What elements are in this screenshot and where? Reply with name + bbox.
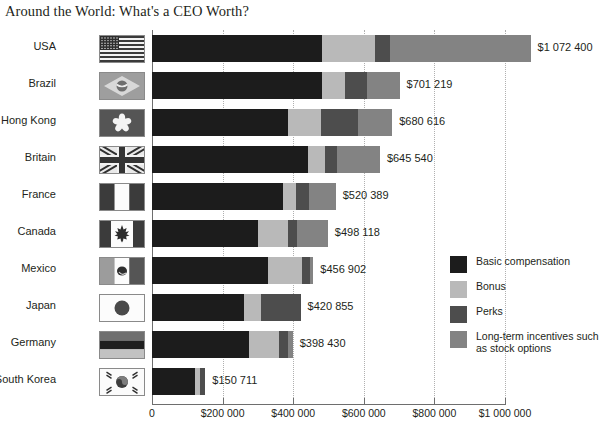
chart-container: Around the World: What's a CEO Worth? 0$… xyxy=(0,0,608,430)
bar-segment xyxy=(152,220,258,247)
bar-value-label: $456 902 xyxy=(320,263,366,275)
category-label: Britain xyxy=(0,151,56,163)
bar-segment xyxy=(152,109,288,136)
bar-segment xyxy=(152,183,283,210)
category-label: Hong Kong xyxy=(0,114,56,126)
bar-segment xyxy=(152,146,308,173)
x-axis-line xyxy=(152,404,506,405)
bar-segment xyxy=(268,257,302,284)
stacked-bar xyxy=(152,146,380,173)
bar-segment xyxy=(309,183,336,210)
japan-flag-icon xyxy=(99,294,145,322)
stacked-bar xyxy=(152,72,400,99)
brazil-flag-icon xyxy=(99,72,145,100)
stacked-bar xyxy=(152,220,328,247)
bar-segment xyxy=(279,331,288,358)
bar-value-label: $150 711 xyxy=(212,374,257,386)
bar-segment xyxy=(200,368,205,395)
category-label: Japan xyxy=(0,299,56,311)
bar-segment xyxy=(258,220,288,247)
south-korea-flag-icon xyxy=(99,368,145,396)
bar-segment xyxy=(337,146,380,173)
bar-segment xyxy=(152,368,195,395)
bar-segment xyxy=(308,146,325,173)
stacked-bar xyxy=(152,183,336,210)
category-label: Germany xyxy=(0,336,56,348)
bar-segment xyxy=(322,72,345,99)
bar-segment xyxy=(288,220,297,247)
mexico-flag-icon xyxy=(99,257,145,285)
legend-item: Perks xyxy=(450,305,600,325)
bar-value-label: $498 118 xyxy=(335,226,380,238)
legend-item: Basic compensation xyxy=(450,255,600,275)
legend-label: Long-term incentives such as stock optio… xyxy=(476,330,600,354)
bar-segment xyxy=(249,331,279,358)
legend-swatch xyxy=(450,281,467,298)
bar-segment xyxy=(261,294,301,321)
legend-label: Bonus xyxy=(476,280,600,293)
bar-segment xyxy=(296,183,309,210)
bar-segment xyxy=(375,35,390,62)
category-label: Brazil xyxy=(0,77,56,89)
bar-value-label: $398 430 xyxy=(300,337,346,349)
x-axis-tick-label: $400 000 xyxy=(271,407,315,419)
bar-segment xyxy=(297,220,328,247)
bar-segment xyxy=(288,331,292,358)
bar-value-label: $520 389 xyxy=(343,189,389,201)
legend-item: Long-term incentives such as stock optio… xyxy=(450,330,600,354)
category-label: South Korea xyxy=(0,373,56,385)
chart-row: Brazil$701 219 xyxy=(0,69,608,103)
bar-segment xyxy=(322,35,376,62)
bar-segment xyxy=(358,109,392,136)
plot-area: 0$200 000$400 000$600 000$800 000$1 000 … xyxy=(0,0,608,430)
britain-flag-icon xyxy=(99,146,145,174)
category-label: Mexico xyxy=(0,262,56,274)
chart-row: USA$1 072 400 xyxy=(0,32,608,66)
category-label: USA xyxy=(0,40,56,52)
bar-segment xyxy=(152,35,322,62)
bar-segment xyxy=(302,257,310,284)
category-label: Canada xyxy=(0,225,56,237)
chart-row: Hong Kong$680 616 xyxy=(0,106,608,140)
stacked-bar xyxy=(152,368,205,395)
chart-row: France$520 389 xyxy=(0,180,608,214)
bar-value-label: $680 616 xyxy=(399,115,445,127)
bar-segment xyxy=(152,331,249,358)
legend-swatch xyxy=(450,331,467,348)
bar-segment xyxy=(345,72,367,99)
x-axis-tick-label: $600 000 xyxy=(342,407,386,419)
chart-row: Britain $645 540 xyxy=(0,143,608,177)
bar-segment xyxy=(283,183,296,210)
category-label: France xyxy=(0,188,56,200)
chart-row: Canada $498 118 xyxy=(0,217,608,251)
x-axis-tick-label: $200 000 xyxy=(201,407,245,419)
stacked-bar xyxy=(152,257,313,284)
chart-legend: Basic compensationBonusPerksLong-term in… xyxy=(450,255,600,359)
bar-value-label: $1 072 400 xyxy=(538,41,593,53)
x-axis-tick-label: $1 000 000 xyxy=(479,407,532,419)
legend-label: Basic compensation xyxy=(476,255,600,268)
legend-label: Perks xyxy=(476,305,600,318)
stacked-bar xyxy=(152,109,392,136)
bar-segment xyxy=(288,109,321,136)
stacked-bar xyxy=(152,294,301,321)
bar-segment xyxy=(152,257,268,284)
legend-swatch xyxy=(450,306,467,323)
bar-value-label: $645 540 xyxy=(387,152,433,164)
canada-flag-icon xyxy=(99,220,145,248)
bar-segment xyxy=(367,72,400,99)
legend-swatch xyxy=(450,256,467,273)
x-axis-tick-label: 0 xyxy=(149,407,155,419)
bar-segment xyxy=(152,294,244,321)
bar-segment xyxy=(152,72,322,99)
bar-segment xyxy=(244,294,261,321)
france-flag-icon xyxy=(99,183,145,211)
bar-segment xyxy=(390,35,530,62)
germany-flag-icon xyxy=(99,331,145,359)
stacked-bar xyxy=(152,331,293,358)
usa-flag-icon xyxy=(99,35,145,63)
x-axis-tick-label: $800 000 xyxy=(412,407,456,419)
bar-segment xyxy=(321,109,358,136)
bar-segment xyxy=(325,146,337,173)
bar-segment xyxy=(310,257,313,284)
